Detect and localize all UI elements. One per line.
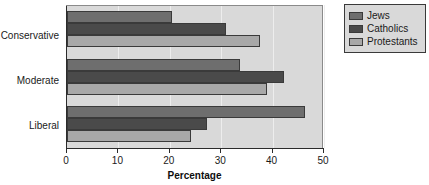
x-axis-tick-label: 20 xyxy=(163,155,174,166)
plot-area xyxy=(66,5,323,148)
plot-frame-top xyxy=(66,5,323,6)
x-axis-tick xyxy=(117,148,118,153)
y-axis-label-conservative: Conservative xyxy=(1,30,59,41)
x-axis-line xyxy=(66,148,323,149)
x-axis-tick xyxy=(169,148,170,153)
x-axis-tick-label: 50 xyxy=(317,155,328,166)
bar-liberal-jews xyxy=(67,106,305,118)
x-axis-tick xyxy=(323,148,324,153)
x-axis-tick-label: 30 xyxy=(215,155,226,166)
bar-conservative-protestants xyxy=(67,35,260,47)
bar-moderate-protestants xyxy=(67,83,267,95)
legend-label-catholics: Catholics xyxy=(367,23,408,34)
legend-label-jews: Jews xyxy=(367,10,390,21)
y-axis-category-labels: Conservative Moderate Liberal xyxy=(0,6,62,146)
bar-liberal-catholics xyxy=(67,118,207,130)
legend-item-jews[interactable]: Jews xyxy=(349,9,422,22)
legend: Jews Catholics Protestants xyxy=(344,4,426,53)
bar-moderate-jews xyxy=(67,59,240,71)
legend-swatch-catholics xyxy=(349,25,363,33)
bar-moderate-catholics xyxy=(67,71,284,83)
y-axis-label-liberal: Liberal xyxy=(29,120,59,131)
legend-item-catholics[interactable]: Catholics xyxy=(349,22,422,35)
y-axis-label-moderate: Moderate xyxy=(17,75,59,86)
x-axis-title: Percentage xyxy=(66,170,323,181)
x-axis-tick-label: 0 xyxy=(63,155,69,166)
legend-item-protestants[interactable]: Protestants xyxy=(349,35,422,48)
x-axis-tick-label: 40 xyxy=(266,155,277,166)
x-axis-tick xyxy=(220,148,221,153)
bar-chart: Conservative Moderate Liberal 0102030405… xyxy=(0,0,429,185)
x-axis-tick-label: 10 xyxy=(112,155,123,166)
legend-swatch-jews xyxy=(349,12,363,20)
bar-conservative-catholics xyxy=(67,23,226,35)
legend-swatch-protestants xyxy=(349,38,363,46)
gridline xyxy=(324,5,325,148)
x-axis-tick xyxy=(66,148,67,153)
bar-conservative-jews xyxy=(67,11,172,23)
bar-liberal-protestants xyxy=(67,130,191,142)
plot-frame-right xyxy=(322,5,323,148)
legend-label-protestants: Protestants xyxy=(367,36,418,47)
x-axis-tick xyxy=(272,148,273,153)
